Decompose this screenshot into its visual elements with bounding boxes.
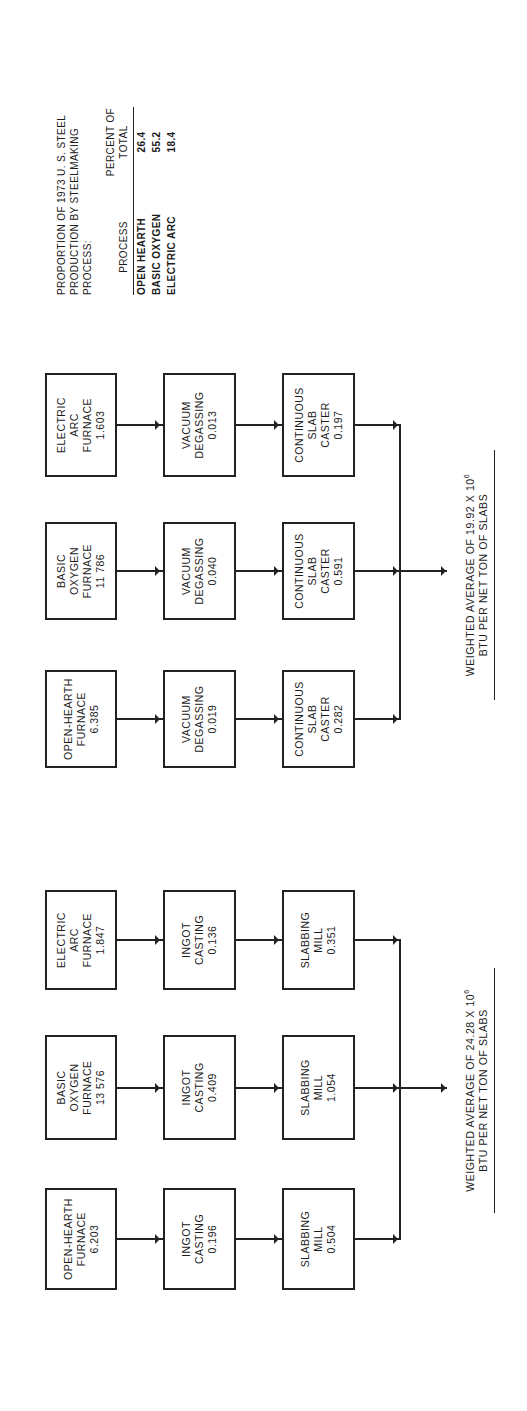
box-label: VACUUM: [180, 401, 193, 449]
arrow-down-icon: [155, 935, 160, 945]
box-label: CONTINUOUS: [293, 387, 306, 463]
box-label: SLABBING: [299, 1211, 312, 1268]
box-label: FURNACE: [81, 544, 94, 598]
box-label: CASTING: [193, 1214, 206, 1264]
arrow-down-icon: [155, 714, 160, 724]
connector-line: [355, 570, 447, 572]
arrow-down-icon: [441, 566, 446, 576]
vacuum-degassing-box: VACUUM DEGASSING 0.013: [163, 373, 236, 477]
box-label: OPEN-HEARTH: [62, 678, 75, 760]
legend-row: ELECTRIC ARC 18.4: [164, 107, 179, 295]
box-value: 11 786: [94, 554, 107, 588]
underline: [494, 968, 495, 1213]
percent-value: 55.2: [149, 107, 164, 177]
vacuum-degassing-box: VACUUM DEGASSING 0.040: [163, 522, 236, 620]
box-value: 1.054: [325, 1073, 338, 1102]
weighted-average-text: WEIGHTED AVERAGE OF 19.92 X 10: [464, 478, 476, 676]
arrow-down-icon: [155, 1083, 160, 1093]
legend-title-line: PROCESS:: [81, 75, 94, 295]
electric-arc-furnace-box: ELECTRIC ARC FURNACE 1.603: [45, 373, 117, 477]
arrow-down-icon: [274, 566, 279, 576]
box-label: MILL: [312, 1226, 325, 1251]
box-label: ELECTRIC: [55, 397, 68, 453]
arrow-down-icon: [393, 1083, 398, 1093]
box-value: 6.203: [88, 1225, 101, 1254]
box-value: 0.504: [325, 1225, 338, 1254]
process-name: OPEN HEARTH: [134, 199, 150, 295]
slabbing-mill-box: SLABBING MILL 0.504: [282, 1188, 355, 1290]
arrow-down-icon: [393, 1234, 398, 1244]
column-header-process: PROCESS: [104, 199, 134, 295]
legend-title-line: PRODUCTION BY STEELMAKING: [68, 75, 81, 295]
box-label: FURNACE: [81, 398, 94, 452]
box-label: SLABBING: [299, 912, 312, 969]
box-label: CASTING: [193, 1062, 206, 1112]
box-label: MILL: [312, 1075, 325, 1100]
junction-line: [399, 424, 401, 720]
arrow-down-icon: [155, 420, 160, 430]
box-label: OXYGEN: [68, 1064, 81, 1112]
box-value: 6.385: [88, 705, 101, 734]
electric-arc-furnace-box: ELECTRIC ARC FURNACE 1.847: [45, 890, 117, 990]
box-label: ARC: [68, 928, 81, 952]
arrow-down-icon: [155, 566, 160, 576]
box-label: CASTER: [319, 696, 332, 742]
box-label: INGOT: [180, 922, 193, 958]
box-value: 0.196: [206, 1225, 219, 1254]
box-label: FURNACE: [81, 913, 94, 967]
arrow-down-icon: [274, 935, 279, 945]
ingot-casting-box: INGOT CASTING 0.196: [163, 1188, 236, 1290]
percent-value: 18.4: [164, 107, 179, 177]
basic-oxygen-furnace-box: BASIC OXYGEN FURNACE 11 786: [45, 522, 117, 620]
continuous-slab-caster-box: CONTINUOUS SLAB CASTER 0.591: [282, 522, 355, 620]
box-label: CASTER: [319, 548, 332, 594]
box-value: 0.282: [332, 705, 345, 734]
box-value: 0.409: [206, 1073, 219, 1102]
box-label: SLAB: [306, 705, 319, 734]
ingot-casting-box: INGOT CASTING 0.409: [163, 1035, 236, 1140]
weighted-average-units: BTU PER NET TON OF SLABS: [477, 968, 490, 1213]
box-label: DEGASSING: [193, 392, 206, 459]
process-name: BASIC OXYGEN: [149, 199, 164, 295]
box-label: VACUUM: [180, 695, 193, 743]
weighted-average-label: WEIGHTED AVERAGE OF 24.28 X 106 BTU PER …: [460, 968, 495, 1213]
legend-table: PROCESS PERCENT OF TOTAL OPEN HEARTH 26.…: [104, 107, 179, 295]
box-label: VACUUM: [180, 547, 193, 595]
box-value: 1.847: [94, 926, 107, 955]
box-value: 0.019: [206, 705, 219, 734]
box-value: 0.136: [206, 926, 219, 955]
arrow-down-icon: [274, 420, 279, 430]
process-name: ELECTRIC ARC: [164, 199, 179, 295]
box-value: 0.040: [206, 557, 219, 586]
box-label: OPEN-HEARTH: [62, 1198, 75, 1280]
arrow-down-icon: [393, 935, 398, 945]
legend-title-line: PROPORTION OF 1973 U. S. STEEL: [55, 75, 68, 295]
percent-value: 26.4: [134, 107, 150, 177]
continuous-slab-caster-box: CONTINUOUS SLAB CASTER 0.282: [282, 670, 355, 768]
steelmaking-energy-diagram: OPEN-HEARTH FURNACE 6.203 INGOT CASTING …: [0, 0, 527, 1411]
box-label: OXYGEN: [68, 547, 81, 595]
production-proportion-legend: PROPORTION OF 1973 U. S. STEEL PRODUCTIO…: [55, 75, 179, 295]
box-value: 0.197: [332, 411, 345, 440]
legend-title: PROPORTION OF 1973 U. S. STEEL PRODUCTIO…: [55, 75, 94, 295]
basic-oxygen-furnace-box: BASIC OXYGEN FURNACE 13 576: [45, 1035, 117, 1140]
box-label: FURNACE: [75, 692, 88, 746]
open-hearth-furnace-box: OPEN-HEARTH FURNACE 6.203: [45, 1188, 117, 1290]
underline: [494, 450, 495, 700]
ingot-casting-box: INGOT CASTING 0.136: [163, 890, 236, 990]
box-label: FURNACE: [75, 1212, 88, 1266]
legend-row: OPEN HEARTH 26.4: [134, 107, 150, 295]
box-label: BASIC: [55, 554, 68, 588]
exponent: 6: [463, 474, 470, 479]
box-label: ELECTRIC: [55, 912, 68, 968]
continuous-slab-caster-box: CONTINUOUS SLAB CASTER 0.197: [282, 373, 355, 477]
arrow-down-icon: [393, 566, 398, 576]
exponent: 6: [463, 989, 470, 994]
box-value: 13 576: [94, 1070, 107, 1105]
box-value: 1.603: [94, 411, 107, 440]
weighted-average-label: WEIGHTED AVERAGE OF 19.92 X 106 BTU PER …: [460, 450, 495, 700]
box-label: ARC: [68, 413, 81, 437]
box-label: BASIC: [55, 1071, 68, 1105]
weighted-average-units: BTU PER NET TON OF SLABS: [477, 450, 490, 700]
arrow-down-icon: [274, 1234, 279, 1244]
